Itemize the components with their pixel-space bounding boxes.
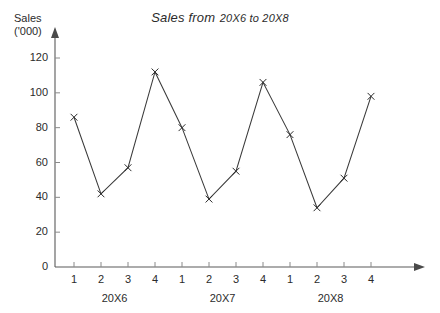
data-point-marker-x-icon — [152, 69, 159, 76]
axes-group — [51, 27, 425, 271]
data-point-marker-x-icon — [98, 190, 105, 197]
data-point-marker-x-icon — [260, 79, 267, 86]
y-tick-label: 60 — [20, 157, 48, 168]
x-tick-label: 2 — [200, 274, 218, 285]
x-tick-label: 4 — [254, 274, 272, 285]
data-point-marker-x-icon — [368, 93, 375, 100]
sales-line-chart: Sales from 20X6 to 20X8 Sales ('000) 020… — [0, 0, 440, 313]
data-point-marker-x-icon — [125, 164, 132, 171]
x-tick-label: 1 — [173, 274, 191, 285]
y-tick-label: 80 — [20, 122, 48, 133]
data-point-marker-x-icon — [314, 204, 321, 211]
year-label: 20X7 — [193, 293, 253, 304]
year-label: 20X8 — [301, 293, 361, 304]
y-tick-label: 0 — [20, 261, 48, 272]
data-point-marker-x-icon — [341, 175, 348, 182]
x-ticks-group — [74, 262, 371, 267]
data-point-marker-x-icon — [71, 114, 78, 121]
sales-data-line — [74, 72, 371, 208]
data-point-marker-x-icon — [206, 196, 213, 203]
x-tick-label: 1 — [281, 274, 299, 285]
y-axis-arrow-icon — [51, 27, 59, 38]
x-tick-label: 3 — [119, 274, 137, 285]
x-tick-label: 1 — [65, 274, 83, 285]
y-tick-label: 20 — [20, 226, 48, 237]
x-tick-label: 3 — [335, 274, 353, 285]
y-ticks-group — [55, 58, 60, 232]
y-tick-label: 40 — [20, 191, 48, 202]
data-point-marker-x-icon — [179, 124, 186, 131]
y-tick-label: 120 — [20, 52, 48, 63]
x-tick-label: 2 — [308, 274, 326, 285]
plot-area — [0, 0, 440, 313]
year-label: 20X6 — [85, 293, 145, 304]
y-tick-label: 100 — [20, 87, 48, 98]
data-point-marker-x-icon — [233, 168, 240, 175]
x-tick-label: 2 — [92, 274, 110, 285]
x-tick-label: 4 — [362, 274, 380, 285]
x-axis-arrow-icon — [414, 263, 425, 271]
data-point-markers — [71, 69, 375, 212]
x-tick-label: 3 — [227, 274, 245, 285]
x-tick-label: 4 — [146, 274, 164, 285]
data-point-marker-x-icon — [287, 131, 294, 138]
